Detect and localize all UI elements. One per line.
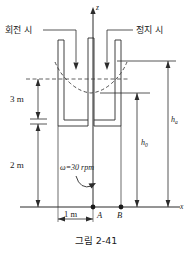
dimension-2m <box>30 124 47 207</box>
dimension-2m-label: 2 m <box>10 160 24 170</box>
omega-label: ω=30 rpm <box>60 163 94 172</box>
dimension-h0 <box>135 93 140 207</box>
figure-rotating-u-tube: z x 회전 시 정지 시 <box>0 0 192 257</box>
parabolic-free-surface-curve <box>55 62 127 93</box>
dimension-ha <box>166 61 171 207</box>
rotating-label: 회전 시 <box>5 25 32 35</box>
ha-label: ha <box>171 115 178 125</box>
static-label: 정지 시 <box>136 25 163 35</box>
dimension-1m-label: 1 m <box>64 209 77 219</box>
dimension-3m-label: 3 m <box>10 94 24 104</box>
x-axis-label: x <box>179 202 184 211</box>
point-b-label: B <box>117 210 122 220</box>
tube-right <box>115 40 121 124</box>
z-axis <box>90 7 95 207</box>
static-leader <box>104 30 133 70</box>
figure-caption: 그림 2-41 <box>75 235 118 246</box>
point-a-label: A <box>96 210 103 220</box>
dimension-3m <box>30 79 47 119</box>
point-a-marker <box>91 205 96 210</box>
z-axis-label: z <box>95 3 99 12</box>
tube-bottom-connections <box>58 118 121 126</box>
tube-left <box>58 40 64 124</box>
h0-label: h0 <box>141 138 148 148</box>
point-b-marker <box>119 205 124 210</box>
rotating-leader <box>43 30 79 70</box>
